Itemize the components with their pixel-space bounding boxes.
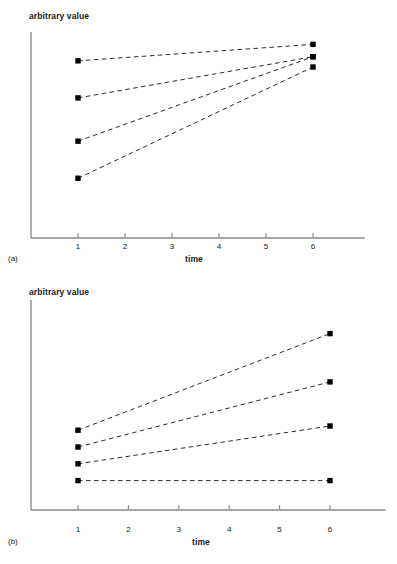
series-line: [78, 426, 330, 464]
data-point-marker: [75, 138, 80, 143]
chart-a-canvas: [0, 0, 397, 282]
panel-label-b: (b): [8, 537, 18, 546]
series-line: [78, 57, 313, 98]
x-tick-label: 5: [273, 525, 287, 534]
series-line: [78, 67, 313, 178]
series-line: [78, 57, 313, 141]
x-axis-title: time: [185, 254, 203, 264]
data-point-marker: [75, 176, 80, 181]
x-tick-label: 5: [259, 242, 273, 251]
x-tick-label: 2: [121, 525, 135, 534]
y-axis-title: arbitrary value: [29, 287, 89, 297]
chart-panel-b: arbitrary value time (b) 1 2 3 4 5 6: [0, 282, 397, 564]
data-series-group-b: [75, 331, 332, 483]
data-point-marker: [327, 379, 332, 384]
data-point-marker: [75, 95, 80, 100]
x-axis-ticks: [78, 505, 330, 510]
series-line: [78, 44, 313, 60]
data-point-marker: [327, 478, 332, 483]
x-tick-label: 1: [71, 525, 85, 534]
axes-a: [31, 32, 365, 238]
x-tick-label: 2: [118, 242, 132, 251]
y-axis-title: arbitrary value: [29, 11, 89, 21]
data-point-marker: [75, 428, 80, 433]
data-point-marker: [327, 423, 332, 428]
series-line: [78, 382, 330, 447]
data-point-marker: [310, 42, 315, 47]
data-point-marker: [310, 64, 315, 69]
x-tick-label: 6: [323, 525, 337, 534]
x-tick-label: 1: [71, 242, 85, 251]
x-tick-label: 4: [212, 242, 226, 251]
data-point-marker: [75, 461, 80, 466]
data-point-marker: [75, 478, 80, 483]
x-tick-label: 6: [306, 242, 320, 251]
x-tick-label: 4: [222, 525, 236, 534]
chart-panel-a: arbitrary value time (a) 1 2 3 4 5 6: [0, 0, 397, 282]
data-point-marker: [75, 58, 80, 63]
x-tick-label: 3: [165, 242, 179, 251]
data-point-marker: [75, 444, 80, 449]
series-line: [78, 334, 330, 431]
x-tick-label: 3: [172, 525, 186, 534]
chart-b-canvas: [0, 282, 397, 564]
data-series-group-a: [75, 42, 315, 181]
x-axis-title: time: [192, 537, 210, 547]
panel-label-a: (a): [8, 254, 18, 263]
data-point-marker: [327, 331, 332, 336]
data-point-marker: [310, 54, 315, 59]
x-axis-ticks: [78, 233, 313, 238]
